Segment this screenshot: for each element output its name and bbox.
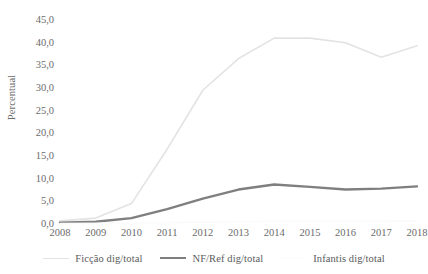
legend-item-2[interactable]: Infantis dig/total: [281, 253, 385, 264]
legend-item-1[interactable]: NF/Ref dig/total: [160, 253, 263, 264]
x-axis-tick-labels: 2008200920102011201220132014201520162017…: [0, 0, 428, 274]
legend-label: Infantis dig/total: [313, 253, 385, 264]
legend-line-swatch-icon: [160, 257, 186, 259]
legend-line-swatch-icon: [281, 258, 307, 259]
legend-label: Ficção dig/total: [75, 253, 142, 264]
legend-item-0[interactable]: Ficção dig/total: [43, 253, 142, 264]
line-chart: Percentual 0,05,010,015,020,025,030,035,…: [0, 0, 428, 274]
chart-legend: Ficção dig/totalNF/Ref dig/totalInfantis…: [0, 248, 428, 268]
legend-line-swatch-icon: [43, 258, 69, 259]
x-axis-tick-2018: 2018: [395, 228, 428, 239]
legend-label: NF/Ref dig/total: [192, 253, 263, 264]
